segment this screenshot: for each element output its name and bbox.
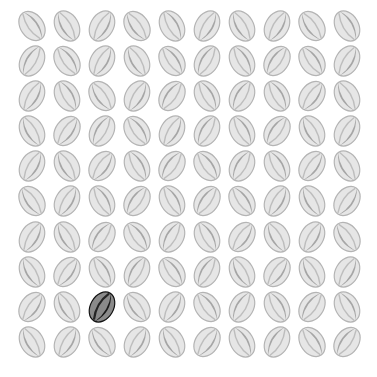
rugby-ball[interactable] — [189, 43, 224, 78]
rugby-ball[interactable] — [259, 325, 294, 360]
rugby-ball[interactable] — [14, 78, 49, 113]
rugby-ball[interactable] — [329, 219, 364, 254]
rugby-ball[interactable] — [84, 325, 119, 360]
rugby-ball[interactable] — [189, 149, 224, 184]
rugby-ball[interactable] — [14, 254, 49, 289]
rugby-ball[interactable] — [329, 43, 364, 78]
rugby-ball[interactable] — [259, 8, 294, 43]
rugby-ball[interactable] — [259, 43, 294, 78]
rugby-ball[interactable] — [329, 184, 364, 219]
rugby-ball[interactable] — [14, 325, 49, 360]
rugby-ball[interactable] — [84, 149, 119, 184]
rugby-ball[interactable] — [154, 254, 189, 289]
rugby-ball[interactable] — [189, 219, 224, 254]
rugby-ball[interactable] — [84, 78, 119, 113]
rugby-ball[interactable] — [224, 78, 259, 113]
rugby-ball[interactable] — [119, 114, 154, 149]
rugby-ball[interactable] — [14, 114, 49, 149]
rugby-ball[interactable] — [294, 114, 329, 149]
rugby-ball[interactable] — [14, 184, 49, 219]
rugby-ball[interactable] — [259, 184, 294, 219]
rugby-ball[interactable] — [224, 219, 259, 254]
rugby-ball[interactable] — [84, 8, 119, 43]
rugby-ball[interactable] — [294, 43, 329, 78]
rugby-ball[interactable] — [154, 78, 189, 113]
rugby-ball[interactable] — [224, 254, 259, 289]
rugby-ball[interactable] — [154, 290, 189, 325]
rugby-ball[interactable] — [49, 78, 84, 113]
rugby-ball[interactable] — [119, 219, 154, 254]
odd-rugby-ball[interactable] — [84, 290, 119, 325]
rugby-ball[interactable] — [49, 149, 84, 184]
rugby-ball[interactable] — [84, 43, 119, 78]
rugby-ball[interactable] — [119, 43, 154, 78]
rugby-ball[interactable] — [189, 114, 224, 149]
rugby-ball[interactable] — [119, 184, 154, 219]
rugby-ball[interactable] — [224, 114, 259, 149]
rugby-ball[interactable] — [294, 149, 329, 184]
rugby-ball[interactable] — [259, 254, 294, 289]
rugby-ball[interactable] — [224, 325, 259, 360]
rugby-ball[interactable] — [84, 114, 119, 149]
rugby-ball[interactable] — [329, 325, 364, 360]
rugby-ball[interactable] — [49, 290, 84, 325]
rugby-ball[interactable] — [294, 78, 329, 113]
rugby-ball[interactable] — [294, 184, 329, 219]
rugby-ball[interactable] — [259, 219, 294, 254]
rugby-ball[interactable] — [49, 325, 84, 360]
rugby-ball[interactable] — [189, 8, 224, 43]
rugby-ball[interactable] — [224, 290, 259, 325]
rugby-ball[interactable] — [224, 43, 259, 78]
rugby-ball[interactable] — [329, 114, 364, 149]
rugby-ball[interactable] — [14, 149, 49, 184]
rugby-ball[interactable] — [294, 254, 329, 289]
rugby-ball[interactable] — [154, 219, 189, 254]
rugby-ball[interactable] — [119, 290, 154, 325]
rugby-ball[interactable] — [84, 254, 119, 289]
rugby-ball[interactable] — [154, 43, 189, 78]
rugby-ball[interactable] — [49, 8, 84, 43]
rugby-ball[interactable] — [189, 78, 224, 113]
rugby-ball[interactable] — [154, 149, 189, 184]
rugby-ball[interactable] — [119, 78, 154, 113]
rugby-ball[interactable] — [294, 8, 329, 43]
rugby-ball[interactable] — [329, 8, 364, 43]
rugby-ball[interactable] — [14, 290, 49, 325]
rugby-ball[interactable] — [329, 254, 364, 289]
rugby-ball[interactable] — [49, 254, 84, 289]
rugby-ball[interactable] — [154, 8, 189, 43]
rugby-ball[interactable] — [294, 325, 329, 360]
rugby-ball[interactable] — [119, 8, 154, 43]
rugby-ball[interactable] — [49, 114, 84, 149]
rugby-ball[interactable] — [329, 149, 364, 184]
rugby-ball[interactable] — [49, 184, 84, 219]
rugby-ball[interactable] — [329, 290, 364, 325]
rugby-ball[interactable] — [329, 78, 364, 113]
rugby-ball[interactable] — [259, 290, 294, 325]
rugby-ball[interactable] — [14, 43, 49, 78]
rugby-ball[interactable] — [189, 290, 224, 325]
rugby-ball[interactable] — [189, 325, 224, 360]
rugby-ball[interactable] — [224, 149, 259, 184]
rugby-ball[interactable] — [154, 325, 189, 360]
rugby-ball[interactable] — [224, 8, 259, 43]
rugby-ball[interactable] — [189, 184, 224, 219]
rugby-ball[interactable] — [154, 184, 189, 219]
rugby-ball[interactable] — [294, 219, 329, 254]
rugby-ball[interactable] — [154, 114, 189, 149]
rugby-ball[interactable] — [119, 254, 154, 289]
rugby-ball[interactable] — [259, 78, 294, 113]
rugby-ball[interactable] — [189, 254, 224, 289]
rugby-ball[interactable] — [49, 219, 84, 254]
rugby-ball[interactable] — [119, 325, 154, 360]
rugby-ball[interactable] — [14, 8, 49, 43]
rugby-ball[interactable] — [119, 149, 154, 184]
rugby-ball[interactable] — [259, 114, 294, 149]
rugby-ball[interactable] — [259, 149, 294, 184]
rugby-ball[interactable] — [49, 43, 84, 78]
rugby-ball[interactable] — [224, 184, 259, 219]
rugby-ball[interactable] — [84, 219, 119, 254]
rugby-ball[interactable] — [294, 290, 329, 325]
rugby-ball[interactable] — [84, 184, 119, 219]
rugby-ball[interactable] — [14, 219, 49, 254]
